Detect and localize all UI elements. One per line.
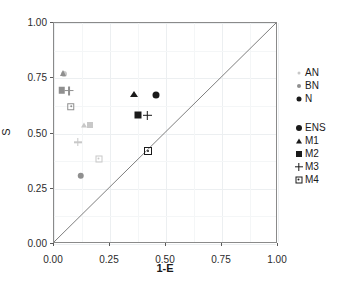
legend-item-m1[interactable]: M1 bbox=[292, 134, 346, 147]
x-axis-tick bbox=[277, 243, 278, 246]
legend-label: BN bbox=[305, 79, 319, 92]
y-axis-tick bbox=[50, 77, 53, 78]
x-axis-tick bbox=[221, 243, 222, 246]
legend-item-m2[interactable]: M2 bbox=[292, 147, 346, 160]
one-to-one-reference-line bbox=[54, 23, 276, 242]
marker-square-dot bbox=[295, 176, 302, 183]
legend-label: M2 bbox=[305, 147, 319, 160]
legend-key-square-dot-icon bbox=[292, 173, 305, 186]
legend-label: M1 bbox=[305, 134, 319, 147]
legend-key-square-icon bbox=[292, 147, 305, 160]
legend-key-circle-icon bbox=[292, 66, 305, 79]
marker-circle bbox=[297, 71, 300, 74]
legend-key-plus-icon bbox=[292, 160, 305, 173]
legend-label: ENS bbox=[305, 121, 326, 134]
x-axis-tick-label: 1.00 bbox=[267, 254, 286, 265]
legend-item-m4[interactable]: M4 bbox=[292, 173, 346, 186]
marker-circle bbox=[297, 84, 301, 88]
legend-item-an[interactable]: AN bbox=[292, 66, 346, 79]
legend-label: M4 bbox=[305, 173, 319, 186]
plus-horizontal-stroke bbox=[295, 166, 303, 167]
x-axis-tick bbox=[165, 243, 166, 246]
legend-key-circle-icon bbox=[292, 79, 305, 92]
legend-key-triangle-icon bbox=[292, 134, 305, 147]
plot-area bbox=[53, 22, 277, 243]
y-axis-tick-label: 1.00 bbox=[28, 17, 47, 28]
x-axis-tick bbox=[109, 243, 110, 246]
x-axis-tick-label: 0.00 bbox=[43, 254, 62, 265]
marker-triangle bbox=[296, 138, 302, 143]
y-axis-tick-label: 0.75 bbox=[28, 72, 47, 83]
legend-label: AN bbox=[305, 66, 319, 79]
scatter-plot-figure: 0.000.250.500.751.000.000.250.500.751.00… bbox=[0, 0, 348, 290]
legend-item-ens[interactable]: ENS bbox=[292, 121, 346, 134]
legend-spacer bbox=[292, 105, 346, 121]
y-axis-tick bbox=[50, 188, 53, 189]
legend-group-shape: ENSM1M2M3M4 bbox=[292, 121, 346, 186]
x-axis-tick-label: 0.75 bbox=[211, 254, 230, 265]
legend: ANBNN ENSM1M2M3M4 bbox=[292, 66, 346, 186]
legend-item-m3[interactable]: M3 bbox=[292, 160, 346, 173]
x-axis-tick-label: 0.25 bbox=[99, 254, 118, 265]
square-dot-center bbox=[298, 179, 300, 181]
y-axis-tick-label: 0.00 bbox=[28, 238, 47, 249]
y-axis-tick-label: 0.50 bbox=[28, 127, 47, 138]
marker-circle bbox=[296, 125, 302, 131]
legend-label: M3 bbox=[305, 160, 319, 173]
x-axis-tick bbox=[53, 243, 54, 246]
marker-square bbox=[296, 151, 302, 157]
legend-group-color: ANBNN bbox=[292, 66, 346, 105]
x-axis-label: 1-E bbox=[156, 262, 173, 274]
marker-plus bbox=[295, 163, 303, 171]
marker-circle bbox=[296, 96, 301, 101]
legend-item-n[interactable]: N bbox=[292, 92, 346, 105]
y-axis-tick bbox=[50, 133, 53, 134]
legend-item-bn[interactable]: BN bbox=[292, 79, 346, 92]
gridline-v bbox=[278, 23, 279, 242]
y-axis-tick-label: 0.25 bbox=[28, 182, 47, 193]
legend-key-circle-icon bbox=[292, 121, 305, 134]
legend-key-circle-icon bbox=[292, 92, 305, 105]
legend-label: N bbox=[305, 92, 312, 105]
y-axis-tick bbox=[50, 22, 53, 23]
plus-vertical-stroke bbox=[298, 163, 299, 171]
y-axis-label: S bbox=[0, 128, 12, 135]
